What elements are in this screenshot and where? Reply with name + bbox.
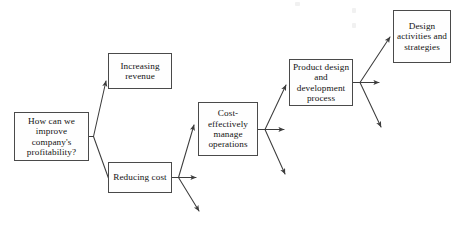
node-label: Product design and development process — [290, 62, 352, 103]
node-label: How can we improve company's profitabili… — [15, 116, 88, 157]
node-label: Cost-effectively manage operations — [199, 108, 257, 149]
node-reducing-cost[interactable]: Reducing cost — [108, 162, 172, 193]
node-cost-effectively-manage-operations[interactable]: Cost-effectively manage operations — [198, 102, 258, 156]
scan-artifact-speck — [352, 23, 356, 28]
edge-product-design-to-design-activities — [360, 37, 390, 83]
edge-question-to-increasing-revenue — [94, 81, 107, 137]
node-label: Reducing cost — [111, 172, 169, 182]
edge-product-design-open-down — [360, 83, 381, 128]
edge-reducing-cost-to-cost-effective-ops — [179, 125, 195, 178]
diagram-canvas: How can we improve company's profitabili… — [0, 0, 457, 232]
node-label: Design activities and strategies — [394, 21, 450, 52]
node-product-design-and-development-process[interactable]: Product design and development process — [289, 59, 353, 106]
node-how-can-we-improve-profitability[interactable]: How can we improve company's profitabili… — [14, 112, 89, 161]
node-label: Increasing revenue — [109, 61, 171, 82]
node-increasing-revenue[interactable]: Increasing revenue — [108, 53, 172, 89]
scan-artifact-speck — [295, 2, 300, 6]
edge-cost-effective-ops-open-down — [265, 130, 285, 175]
edge-cost-effective-ops-to-product-design — [265, 85, 286, 130]
node-design-activities-and-strategies[interactable]: Design activities and strategies — [393, 10, 451, 63]
edge-reducing-cost-open-down — [179, 178, 200, 212]
scan-artifact-speck — [352, 8, 356, 13]
